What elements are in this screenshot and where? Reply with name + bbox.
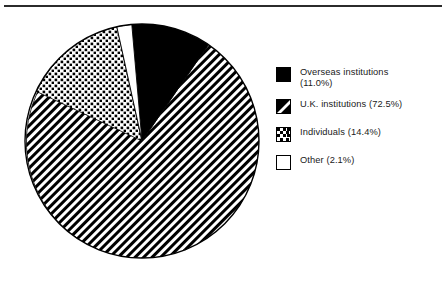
legend-label-overseas-institutions: Overseas institutions (11.0%) [300, 66, 388, 89]
diagonal-hatch-swatch [276, 99, 291, 114]
legend: Overseas institutions (11.0%) U.K. insti… [276, 66, 444, 172]
legend-item-other: Other (2.1%) [276, 154, 444, 172]
solid-black-swatch [276, 67, 291, 82]
legend-item-uk-institutions: U.K. institutions (72.5%) [276, 98, 444, 116]
legend-item-individuals: Individuals (14.4%) [276, 126, 444, 144]
legend-label-individuals: Individuals (14.4%) [300, 126, 381, 138]
pie-chart-figure: Overseas institutions (11.0%) U.K. insti… [0, 0, 446, 291]
pie-chart-area [0, 0, 272, 291]
empty-white-swatch [276, 155, 291, 170]
legend-item-overseas-institutions: Overseas institutions (11.0%) [276, 66, 444, 89]
pie-chart-svg [0, 0, 272, 291]
legend-label-uk-institutions: U.K. institutions (72.5%) [300, 98, 402, 110]
dotted-swatch [276, 127, 291, 142]
legend-label-other: Other (2.1%) [300, 154, 354, 166]
